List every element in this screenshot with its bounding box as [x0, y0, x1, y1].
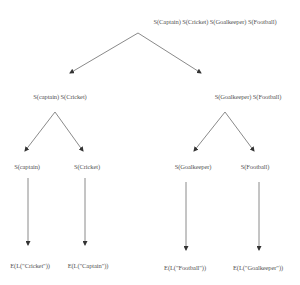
node-football-label: S(Football): [241, 163, 270, 170]
node-captain-label: S(captain): [14, 163, 40, 170]
node-goalkeeper-football-label: S(Goalkeeper) S(Football): [215, 93, 282, 100]
node-cricket-label: S(Cricket): [74, 163, 100, 170]
edge-left-left-arrow: [25, 112, 55, 151]
leaf-goalkeeper-label: E(L("Goalkeeper")): [233, 264, 283, 271]
edge-right-right-arrow: [225, 112, 254, 151]
node-goalkeeper-label: S(Goalkeeper): [175, 163, 212, 170]
tree-edges: [0, 0, 300, 285]
root-node-label: S(Captain) S(Cricket) S(Goalkeeper) S(Fo…: [154, 18, 277, 25]
edge-root-right-arrow: [138, 33, 201, 73]
leaf-captain-label: E(L("Captain")): [68, 262, 109, 269]
edge-right-left-arrow: [194, 112, 225, 151]
leaf-cricket-label: E(L("Cricket")): [10, 262, 50, 269]
tree-diagram: S(Captain) S(Cricket) S(Goalkeeper) S(Fo…: [0, 0, 300, 285]
node-captain-cricket-label: S(captain) S(Cricket): [33, 93, 86, 100]
edge-root-left-arrow: [70, 33, 138, 73]
leaf-football-label: E(L("Football")): [164, 264, 206, 271]
edge-left-right-arrow: [55, 112, 83, 151]
